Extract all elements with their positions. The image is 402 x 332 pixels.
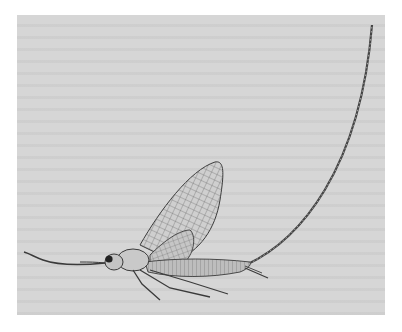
- compound-eye: [105, 255, 112, 262]
- mayfly-illustration: [0, 0, 402, 332]
- abdomen: [145, 259, 250, 277]
- tail-filament: [246, 25, 372, 265]
- forelegs: [24, 252, 105, 265]
- short-cerci: [245, 266, 268, 278]
- head: [105, 254, 123, 270]
